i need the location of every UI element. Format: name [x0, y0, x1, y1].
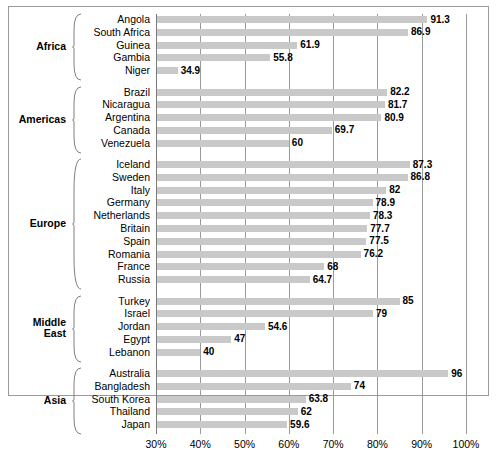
group-brace	[72, 13, 81, 81]
bar-value-label: 78.3	[373, 211, 392, 221]
group-brace	[72, 86, 81, 154]
category-label: South Korea	[92, 394, 150, 405]
bar-value-label: 60	[292, 138, 303, 148]
bar	[157, 42, 297, 49]
bar-value-label: 64.7	[313, 275, 332, 285]
bar-value-label: 91.3	[430, 15, 449, 25]
category-label: Russia	[118, 274, 150, 285]
x-tick-label: 40%	[180, 438, 220, 450]
bar	[157, 54, 270, 61]
category-label: Brazil	[124, 87, 150, 98]
bar	[157, 114, 381, 121]
bar	[157, 238, 366, 245]
bar-value-label: 85	[403, 296, 414, 306]
category-label: Netherlands	[93, 210, 150, 221]
group-label: Asia	[0, 395, 66, 407]
group-label: Africa	[0, 41, 66, 53]
bar	[157, 263, 324, 270]
bar-value-label: 61.9	[300, 40, 319, 50]
category-label: Argentina	[105, 112, 150, 123]
chart-container: Angola91.3South Africa86.9Guinea61.9Gamb…	[8, 6, 489, 396]
group-brace	[72, 367, 81, 435]
bar	[157, 370, 448, 377]
bar	[157, 187, 386, 194]
bar-value-label: 86.9	[411, 27, 430, 37]
bar-value-label: 34.9	[181, 66, 200, 76]
bar-value-label: 63.8	[309, 394, 328, 404]
bar	[157, 161, 410, 168]
category-label: Guinea	[116, 40, 150, 51]
bar	[157, 140, 289, 147]
bar	[157, 383, 351, 390]
bar-value-label: 47	[234, 334, 245, 344]
bar-value-label: 82	[389, 185, 400, 195]
bar-value-label: 69.7	[335, 125, 354, 135]
gridline-100	[466, 14, 467, 434]
bar-value-label: 81.7	[388, 100, 407, 110]
bar	[157, 29, 408, 36]
category-label: France	[117, 261, 150, 272]
bar-value-label: 59.6	[290, 420, 309, 430]
group-label: Americas	[0, 114, 66, 126]
bar-value-label: 77.5	[369, 236, 388, 246]
bar	[157, 323, 265, 330]
bar	[157, 16, 427, 23]
x-tick-label: 80%	[357, 438, 397, 450]
bar-value-label: 74	[354, 381, 365, 391]
bar	[157, 199, 373, 206]
bar	[157, 127, 332, 134]
category-label: Lebanon	[109, 347, 150, 358]
group-label: Europe	[0, 218, 66, 230]
category-label: Iceland	[116, 159, 150, 170]
category-label: Britain	[120, 223, 150, 234]
category-label: Germany	[107, 197, 150, 208]
category-label: Canada	[113, 125, 150, 136]
bar	[157, 67, 178, 74]
category-label: Romania	[108, 249, 150, 260]
bar	[157, 298, 400, 305]
x-tick-label: 90%	[402, 438, 442, 450]
bar-value-label: 76.2	[364, 249, 383, 259]
category-label: Israel	[124, 308, 150, 319]
category-label: Turkey	[118, 296, 150, 307]
bar-value-label: 82.2	[390, 87, 409, 97]
category-label: Japan	[121, 419, 150, 430]
bar	[157, 101, 385, 108]
bar	[157, 89, 387, 96]
x-tick-label: 70%	[313, 438, 353, 450]
x-tick-label: 100%	[446, 438, 486, 450]
category-label: South Africa	[93, 27, 150, 38]
bar-value-label: 87.3	[413, 160, 432, 170]
bar-value-label: 80.9	[384, 113, 403, 123]
bar-value-label: 55.8	[273, 53, 292, 63]
bar-value-label: 86.8	[411, 172, 430, 182]
bar	[157, 276, 310, 283]
bar-value-label: 96	[451, 369, 462, 379]
bar-value-label: 77.7	[370, 224, 389, 234]
category-label: Egypt	[123, 334, 150, 345]
bar	[157, 174, 408, 181]
category-label: Jordan	[118, 321, 150, 332]
bar	[157, 408, 298, 415]
bar	[157, 396, 306, 403]
bar-value-label: 54.6	[268, 322, 287, 332]
group-brace	[72, 158, 81, 290]
bar	[157, 212, 370, 219]
bar	[157, 421, 287, 428]
category-label: Gambia	[113, 52, 150, 63]
category-label: Bangladesh	[95, 381, 150, 392]
category-label: Venezuela	[101, 138, 150, 149]
bar-value-label: 79	[376, 309, 387, 319]
category-label: Thailand	[110, 406, 150, 417]
x-tick-label: 50%	[225, 438, 265, 450]
category-label: Angola	[117, 14, 150, 25]
category-label: Spain	[123, 236, 150, 247]
category-label: Nicaragua	[102, 99, 150, 110]
bar	[157, 349, 200, 356]
bar	[157, 310, 373, 317]
x-tick-label: 30%	[136, 438, 176, 450]
bar	[157, 251, 361, 258]
category-label: Niger	[125, 65, 150, 76]
group-brace	[72, 295, 81, 363]
bar	[157, 336, 231, 343]
